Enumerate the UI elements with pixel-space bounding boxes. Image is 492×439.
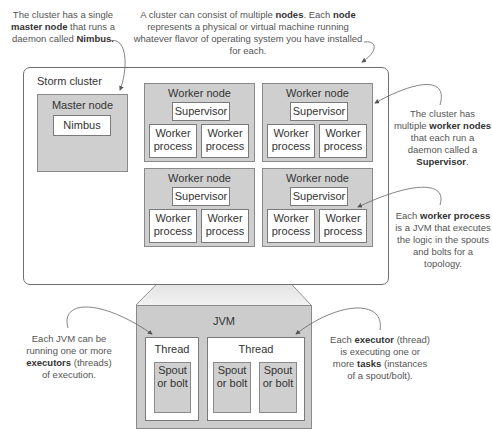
arrow-to-worker-node <box>375 84 441 105</box>
arrow-to-worker-process <box>358 187 441 207</box>
arrow-to-thread <box>296 308 380 334</box>
arrow-to-master-node <box>110 41 125 90</box>
callout-arrows <box>0 0 492 439</box>
arrow-to-cluster <box>362 42 374 62</box>
arrow-to-jvm <box>67 307 152 334</box>
